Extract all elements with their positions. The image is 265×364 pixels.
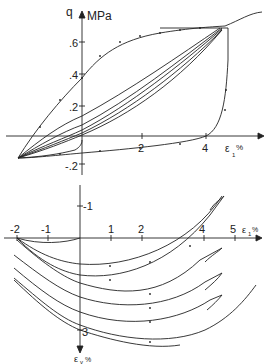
bot-tick-y3: 3 (82, 326, 88, 338)
bot-ylabel-sub: v (80, 359, 83, 364)
bot-ylabel: ε (74, 354, 78, 364)
top-tick-x4: 4 (202, 142, 208, 154)
stress-strain-chart: q MPa .6 .4 .2 -.2 2 4 ε 1 % -2 -1 1 2 4… (0, 0, 265, 364)
top-tick-x2: 2 (138, 142, 144, 154)
bot-tick-xm2: -2 (10, 223, 20, 235)
vol-cycle-6 (14, 280, 180, 346)
top-xlabel-sub: 1 (232, 152, 236, 158)
reloading-line-1 (18, 28, 220, 158)
top-tick-m02: -.2 (65, 160, 78, 172)
bot-tick-x4: 4 (199, 223, 205, 235)
top-xlabel-unit: % (236, 143, 243, 152)
bot-tick-xm1: -1 (41, 223, 51, 235)
vol-cycle-4 (14, 268, 222, 321)
bot-tick-ym1: -1 (83, 200, 93, 212)
bot-xlabel: ε (242, 225, 246, 235)
top-x-axis-arrow (258, 133, 264, 139)
top-tick-06: .6 (69, 37, 78, 49)
bot-tick-x1: 1 (108, 223, 114, 235)
vol-cycle-2 (17, 240, 222, 291)
bottom-x-axis-arrow (256, 235, 262, 241)
vol-cycle-1-lower (17, 238, 80, 243)
top-tick-02: .2 (69, 101, 78, 113)
top-ylabel-q: q (66, 5, 73, 19)
bot-tick-x2: 2 (138, 223, 144, 235)
bot-ylabel-unit: % (85, 356, 91, 363)
top-ylabel-unit: MPa (87, 9, 112, 23)
top-xlabel: ε (225, 143, 230, 154)
bot-xlabel-unit: % (252, 226, 258, 233)
bot-tick-x5: 5 (230, 223, 236, 235)
bottom-y-axis-arrow (77, 346, 83, 353)
top-y-axis-arrow (79, 11, 85, 18)
vol-cycle-5 (14, 278, 256, 339)
top-tick-04: .4 (69, 69, 78, 81)
